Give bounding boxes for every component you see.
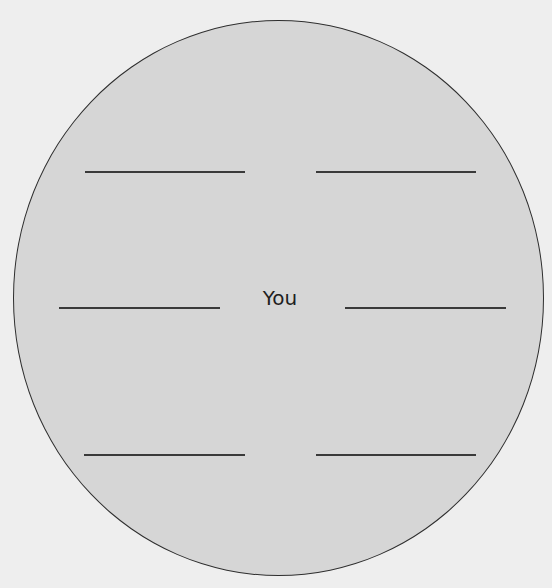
blank-line-middle-right[interactable] [345, 307, 506, 309]
blank-line-middle-left[interactable] [59, 307, 220, 309]
blank-line-bottom-left[interactable] [84, 454, 245, 456]
worksheet-canvas: You [0, 0, 552, 588]
blank-line-bottom-right[interactable] [316, 454, 476, 456]
center-label: You [230, 283, 330, 313]
blank-line-top-right[interactable] [316, 171, 476, 173]
blank-line-top-left[interactable] [85, 171, 245, 173]
